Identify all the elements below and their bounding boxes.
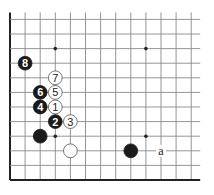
- point-marker-label: a: [158, 144, 164, 158]
- stone-move-number: 8: [22, 57, 28, 69]
- stone-move-number: 6: [37, 86, 43, 98]
- star-point-icon: [144, 47, 148, 51]
- go-board-diagram: 12345678 a: [0, 0, 214, 195]
- white-stone-7: 7: [48, 71, 62, 85]
- stone-move-number: 3: [67, 116, 73, 128]
- star-point-icon: [54, 47, 58, 51]
- stone-move-number: 4: [37, 101, 44, 113]
- stone-move-number: 1: [52, 101, 58, 113]
- markers: a: [156, 144, 166, 158]
- black-stone-2: 2: [48, 115, 62, 129]
- white-stone-3: 3: [64, 115, 78, 129]
- white-stone: [64, 144, 78, 158]
- stone-move-number: 2: [52, 116, 58, 128]
- star-point-icon: [54, 134, 58, 138]
- black-stone-4: 4: [33, 100, 47, 114]
- black-stone: [33, 129, 47, 143]
- stone-move-number: 7: [52, 72, 58, 84]
- star-point-icon: [144, 134, 148, 138]
- black-stone: [124, 144, 138, 158]
- white-stone-5: 5: [48, 86, 62, 100]
- black-stone-6: 6: [33, 86, 47, 100]
- stone-move-number: 5: [52, 86, 58, 98]
- white-stone-1: 1: [48, 100, 62, 114]
- black-stone-8: 8: [18, 56, 32, 70]
